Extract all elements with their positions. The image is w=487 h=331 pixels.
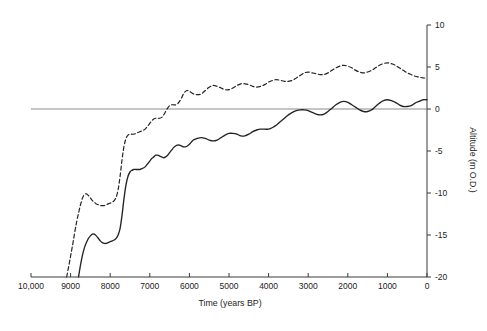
chart-canvas: 10,0009000800070006000500040003000200010…: [0, 0, 487, 331]
x-axis-tick-label: 2000: [338, 281, 357, 291]
y-axis: 1050-5-10-15-20: [427, 20, 448, 282]
x-axis-tick-label: 1000: [378, 281, 397, 291]
y-axis-tick-label: 5: [435, 62, 440, 72]
x-axis-tick-label: 6000: [180, 281, 199, 291]
y-axis-title: Altitude (m O.D.): [468, 127, 478, 193]
x-axis-tick-label: 3000: [299, 281, 318, 291]
x-axis-tick-label: 5000: [220, 281, 239, 291]
x-axis-tick-label: 4000: [259, 281, 278, 291]
x-axis-tick-label: 7000: [140, 281, 159, 291]
y-axis-tick-label: 10: [435, 20, 445, 30]
y-axis-tick-label: -15: [435, 230, 448, 240]
x-axis: 10,0009000800070006000500040003000200010…: [18, 273, 430, 291]
plot-series-group: [31, 63, 427, 277]
y-axis-tick-label: -10: [435, 188, 448, 198]
dashed-curve-series: [67, 63, 427, 277]
y-axis-tick-label: -5: [435, 146, 443, 156]
solid-curve-series: [79, 100, 427, 277]
y-axis-tick-label: -20: [435, 272, 448, 282]
y-axis-tick-label: 0: [435, 104, 440, 114]
sea-level-curve-figure: 10,0009000800070006000500040003000200010…: [0, 0, 487, 331]
x-axis-tick-label: 9000: [61, 281, 80, 291]
x-axis-title: Time (years BP): [198, 298, 261, 308]
x-axis-tick-label: 10,000: [18, 281, 44, 291]
x-axis-tick-label: 0: [425, 281, 430, 291]
x-axis-tick-label: 8000: [101, 281, 120, 291]
